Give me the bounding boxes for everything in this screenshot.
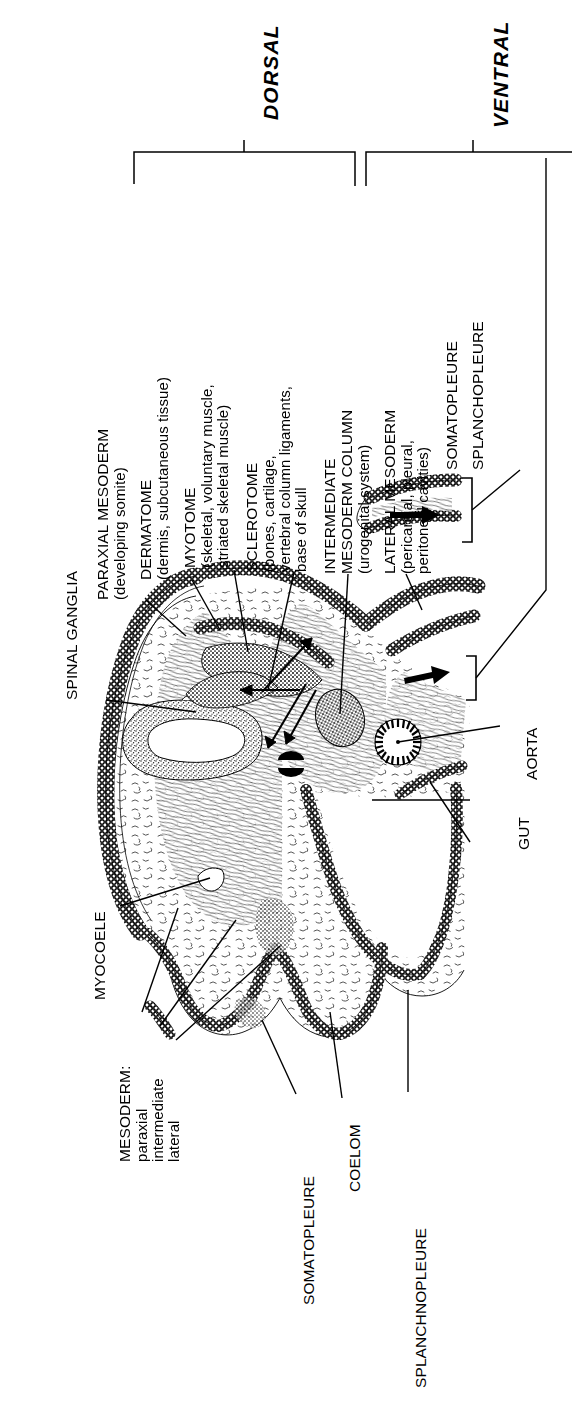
- label-myocoele: MYOCOELE: [92, 911, 109, 1000]
- label-dermatome: DERMATOME: [138, 480, 155, 580]
- embryo-section-illustration: [0, 0, 572, 1413]
- label-mesoderm-intermediate: intermediate: [150, 1078, 166, 1162]
- label-myotome-detail-1: (skeletal, voluntary muscle,: [199, 384, 215, 568]
- label-intermediate-mesoderm-line1: INTERMEDIATE: [322, 459, 339, 574]
- axis-label-ventral: VENTRAL: [490, 20, 513, 128]
- label-dermatome-detail: (dermis, subcutaneous tissue): [155, 377, 171, 580]
- label-splanchopleure-top: SPLANCHOPLEURE: [470, 321, 487, 470]
- label-sclerotome-detail-2: vertebral column ligaments,: [277, 386, 293, 572]
- axis-label-dorsal: DORSAL: [260, 24, 283, 120]
- label-paraxial-mesoderm-detail: (developing somite): [112, 467, 128, 600]
- label-mesoderm-group: MESODERM:: [117, 1066, 134, 1163]
- label-lateral-mesoderm-detail-2: peritoneal cavities): [415, 447, 431, 574]
- axis-bracket-dorsal: [134, 140, 355, 186]
- label-sclerotome-detail-1: (bones, cartilage,: [261, 455, 277, 572]
- label-sclerotome-detail-3: base of skull: [293, 487, 309, 572]
- label-splanchnopleure-bottom: SPLANCHNOPLEURE: [413, 1228, 430, 1388]
- axis-bracket-ventral: [366, 140, 572, 186]
- label-intermediate-mesoderm-line2: MESODERM COLUMN: [339, 410, 356, 574]
- figure-canvas: DORSAL VENTRAL SPINAL GANGLIA PARAXIAL M…: [0, 0, 572, 1413]
- label-coelom: COELOM: [347, 1124, 364, 1192]
- label-myotome: MYOTOME: [182, 487, 199, 568]
- label-intermediate-mesoderm-detail: (urogenital system): [356, 445, 372, 574]
- label-sclerotome: SCLEROTOME: [244, 463, 261, 572]
- label-mesoderm-lateral: lateral: [166, 1120, 182, 1162]
- label-spinal-ganglia: SPINAL GANGLIA: [64, 571, 81, 700]
- label-aorta: AORTA: [524, 728, 541, 780]
- label-somatopleure-top: SOMATOPLEURE: [444, 341, 461, 470]
- label-lateral-mesoderm: LATERAL MESODERM: [382, 410, 399, 574]
- label-myotome-detail-2: striated skeletal muscle): [215, 405, 231, 568]
- label-paraxial-mesoderm: PARAXIAL MESODERM: [95, 429, 112, 600]
- label-lateral-mesoderm-detail-1: (pericardial, pleural,: [399, 440, 415, 574]
- label-mesoderm-paraxial: paraxial: [134, 1109, 150, 1162]
- label-somatopleure-bottom: SOMATOPLEURE: [301, 1176, 318, 1305]
- label-gut: GUT: [516, 817, 533, 850]
